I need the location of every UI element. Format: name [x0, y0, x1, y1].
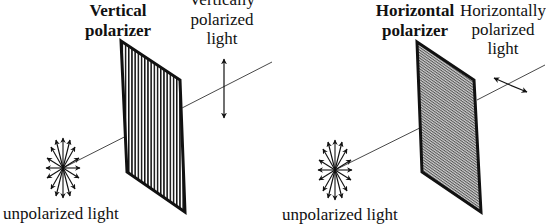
horizontally-polarized-label-line1: Horizontally — [460, 1, 546, 20]
light-ray-left-out — [182, 62, 272, 108]
horizontal-polarizer-label-line1: Horizontal — [376, 1, 454, 20]
vertically-polarized-label-line3: light — [206, 29, 237, 48]
unpolarized-light-icon-right — [318, 140, 352, 200]
unpolarized-light-label-left: unpolarized light — [3, 204, 119, 223]
horizontally-polarized-label-line2: polarized — [471, 20, 534, 39]
panel-horizontal — [318, 42, 545, 212]
vertical-polarizer-label-line2: polarizer — [85, 21, 151, 40]
horizontally-polarized-label-line3: light — [487, 39, 518, 58]
panel-vertical — [46, 41, 272, 212]
horizontal-polarizer — [417, 42, 481, 212]
light-ray-right-out — [477, 65, 545, 100]
horizontal-polarizer-label-line2: polarizer — [382, 21, 448, 40]
unpolarized-light-icon — [46, 138, 80, 198]
horizontal-polarization-arrow-icon — [494, 78, 510, 85]
unpolarized-light-label-right: unpolarized light — [282, 205, 398, 224]
vertically-polarized-label-line1: Vertically — [189, 0, 255, 9]
vertically-polarized-label-line2: polarized — [190, 10, 253, 29]
horizontal-polarization-arrow-right — [510, 85, 527, 92]
vertical-polarizer — [121, 41, 185, 212]
vertical-polarizer-label-line1: Vertical — [90, 1, 147, 20]
